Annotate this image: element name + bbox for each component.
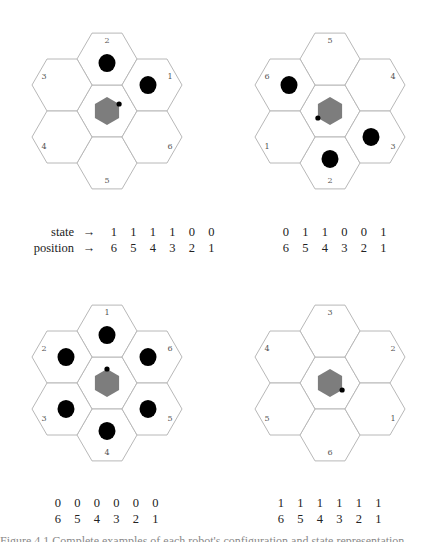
state-cell: 0 bbox=[202, 225, 222, 240]
hex-position-label: 5 bbox=[104, 176, 109, 185]
hex-panel-top-right: 123456 bbox=[255, 33, 405, 189]
state-cell: 0 bbox=[276, 225, 296, 240]
hex-position-label: 2 bbox=[390, 344, 395, 353]
orientation-marker-icon bbox=[340, 387, 345, 392]
orientation-marker-icon bbox=[315, 115, 320, 120]
hex-position-label: 1 bbox=[390, 414, 395, 423]
hex-position-label: 5 bbox=[167, 414, 172, 423]
state-cell: 1 bbox=[163, 225, 183, 240]
position-row: 6 5 4 3 2 1 bbox=[48, 511, 165, 527]
state-cell: 1 bbox=[271, 496, 291, 511]
position-cell: 3 bbox=[163, 241, 183, 256]
state-row: 0 1 1 0 0 1 bbox=[276, 224, 393, 240]
module-circle-icon bbox=[99, 422, 116, 440]
hex-position-label: 6 bbox=[264, 72, 269, 81]
state-cell: 1 bbox=[349, 496, 369, 511]
position-cell: 2 bbox=[349, 512, 369, 527]
position-cell: 3 bbox=[330, 512, 350, 527]
hex-position-label: 5 bbox=[264, 414, 269, 423]
hex-position-label: 6 bbox=[167, 344, 172, 353]
position-label: position bbox=[16, 241, 74, 256]
orientation-marker-icon bbox=[104, 366, 109, 371]
state-cell: 1 bbox=[124, 225, 144, 240]
position-cell: 3 bbox=[335, 241, 355, 256]
position-cell: 4 bbox=[310, 512, 330, 527]
module-circle-icon bbox=[58, 400, 75, 418]
hexagon-figure: 123456123456123456123456 bbox=[0, 0, 429, 542]
state-cell: 1 bbox=[374, 225, 394, 240]
position-cell: 5 bbox=[291, 512, 311, 527]
position-cell: 2 bbox=[182, 241, 202, 256]
position-cell: 2 bbox=[354, 241, 374, 256]
module-circle-icon bbox=[140, 400, 157, 418]
hex-position-label: 6 bbox=[167, 142, 172, 151]
position-cell: 5 bbox=[68, 512, 88, 527]
hex-position-label: 2 bbox=[327, 176, 332, 185]
state-cell: 1 bbox=[296, 225, 316, 240]
module-circle-icon bbox=[99, 326, 116, 344]
hex-position-label: 1 bbox=[167, 72, 172, 81]
hex-position-label: 3 bbox=[327, 308, 332, 317]
state-cell: 1 bbox=[291, 496, 311, 511]
hex-panel-bottom-right: 123456 bbox=[255, 305, 405, 461]
position-row: position → 6 5 4 3 2 1 bbox=[16, 240, 221, 256]
state-cell: 1 bbox=[369, 496, 389, 511]
figure-caption: Figure 4.1 Complete examples of each rob… bbox=[0, 530, 429, 542]
state-cell: 0 bbox=[146, 496, 166, 511]
position-cell: 1 bbox=[146, 512, 166, 527]
position-cell: 6 bbox=[276, 241, 296, 256]
hex-position-label: 1 bbox=[104, 308, 109, 317]
position-cell: 4 bbox=[87, 512, 107, 527]
position-cell: 3 bbox=[107, 512, 127, 527]
hex-panel-bottom-left: 123456 bbox=[32, 305, 182, 461]
hex-position-label: 2 bbox=[104, 36, 109, 45]
state-cell: 0 bbox=[182, 225, 202, 240]
hex-panel-top-left: 123456 bbox=[32, 33, 182, 189]
hex-position-label: 4 bbox=[390, 72, 395, 81]
state-cell: 0 bbox=[68, 496, 88, 511]
state-cell: 1 bbox=[315, 225, 335, 240]
hex-position-label: 3 bbox=[41, 414, 46, 423]
module-circle-icon bbox=[281, 76, 298, 94]
state-label: state bbox=[16, 225, 74, 240]
hex-position-label: 2 bbox=[41, 344, 46, 353]
hex-position-label: 1 bbox=[264, 142, 269, 151]
hex-position-label: 4 bbox=[104, 448, 109, 457]
position-cell: 5 bbox=[124, 241, 144, 256]
state-table-top-left: state → 1 1 1 1 0 0 position → 6 5 4 3 2… bbox=[16, 224, 221, 256]
position-row: 6 5 4 3 2 1 bbox=[271, 511, 388, 527]
hex-position-label: 6 bbox=[327, 448, 332, 457]
state-cell: 0 bbox=[48, 496, 68, 511]
state-row: 1 1 1 1 1 1 bbox=[271, 495, 388, 511]
hex-position-label: 4 bbox=[41, 142, 46, 151]
state-row: state → 1 1 1 1 0 0 bbox=[16, 224, 221, 240]
state-cell: 1 bbox=[310, 496, 330, 511]
hex-position-label: 4 bbox=[264, 344, 269, 353]
module-circle-icon bbox=[322, 150, 339, 168]
state-row: 0 0 0 0 0 0 bbox=[48, 495, 165, 511]
module-circle-icon bbox=[58, 348, 75, 366]
module-circle-icon bbox=[363, 128, 380, 146]
position-cell: 4 bbox=[143, 241, 163, 256]
position-cell: 1 bbox=[369, 512, 389, 527]
state-table-top-right: 0 1 1 0 0 1 6 5 4 3 2 1 bbox=[276, 224, 393, 256]
position-cell: 2 bbox=[126, 512, 146, 527]
arrow-icon: → bbox=[74, 241, 104, 256]
hex-position-label: 3 bbox=[390, 142, 395, 151]
module-circle-icon bbox=[140, 76, 157, 94]
state-table-bottom-right: 1 1 1 1 1 1 6 5 4 3 2 1 bbox=[271, 495, 388, 527]
position-cell: 6 bbox=[104, 241, 124, 256]
position-cell: 1 bbox=[202, 241, 222, 256]
position-cell: 6 bbox=[271, 512, 291, 527]
orientation-marker-icon bbox=[117, 101, 122, 106]
position-cell: 5 bbox=[296, 241, 316, 256]
hex-position-label: 5 bbox=[327, 36, 332, 45]
position-cell: 1 bbox=[374, 241, 394, 256]
module-circle-icon bbox=[99, 54, 116, 72]
state-cell: 1 bbox=[104, 225, 124, 240]
position-cell: 6 bbox=[48, 512, 68, 527]
state-cell: 0 bbox=[107, 496, 127, 511]
state-cell: 0 bbox=[126, 496, 146, 511]
state-table-bottom-left: 0 0 0 0 0 0 6 5 4 3 2 1 bbox=[48, 495, 165, 527]
position-row: 6 5 4 3 2 1 bbox=[276, 240, 393, 256]
